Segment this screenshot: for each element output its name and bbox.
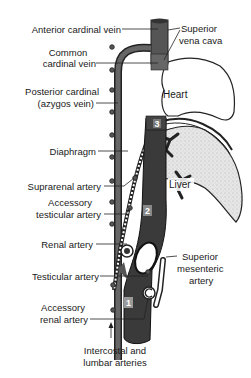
label-accessory-testicular-1: Accessory	[40, 197, 100, 208]
ivc-development-diagram: 3 2 1	[0, 0, 251, 378]
label-accessory-testicular-2: testicular artery	[36, 209, 101, 220]
label-superior-vena-cava-2: vena cava	[179, 35, 222, 46]
segment-1-label: 1	[126, 298, 131, 308]
segment-2-label: 2	[145, 206, 150, 216]
label-intercostal-2: lumbar arteries	[75, 357, 155, 368]
label-heart: Heart	[163, 89, 187, 100]
label-intercostal-1: Intercostal and	[75, 345, 155, 356]
label-suprarenal-artery: Suprarenal artery	[28, 181, 101, 192]
label-anterior-cardinal-vein: Anterior cardinal vein	[32, 24, 121, 35]
segment-3-label: 3	[155, 119, 160, 129]
label-posterior-cardinal-1: Posterior cardinal	[25, 86, 99, 97]
ivc-shape	[124, 118, 166, 344]
label-superior-mesenteric-3: artery	[189, 275, 213, 286]
label-accessory-renal-2: renal artery	[40, 314, 88, 325]
label-superior-mesenteric-2: mesenteric	[177, 263, 223, 274]
label-common-cardinal-vein-1: Common	[38, 47, 98, 58]
label-superior-vena-cava-1: Superior	[181, 23, 217, 34]
label-testicular-artery: Testicular artery	[32, 271, 99, 282]
label-posterior-cardinal-2: (azygos vein)	[38, 98, 95, 109]
label-liver: Liver	[169, 179, 191, 190]
label-superior-mesenteric-1: Superior	[182, 251, 218, 262]
label-accessory-renal-1: Accessory	[33, 302, 93, 313]
label-diaphragm: Diaphragm	[50, 146, 96, 157]
label-renal-artery: Renal artery	[41, 239, 93, 250]
label-common-cardinal-vein-2: cardinal vein	[43, 58, 96, 69]
